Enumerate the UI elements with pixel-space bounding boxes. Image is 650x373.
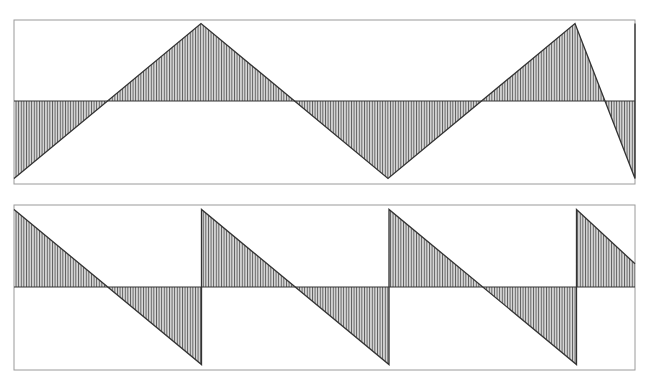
triangle-wave-panel [14, 20, 635, 184]
waveform-figure [0, 0, 650, 373]
sawtooth-wave-panel [14, 205, 635, 370]
